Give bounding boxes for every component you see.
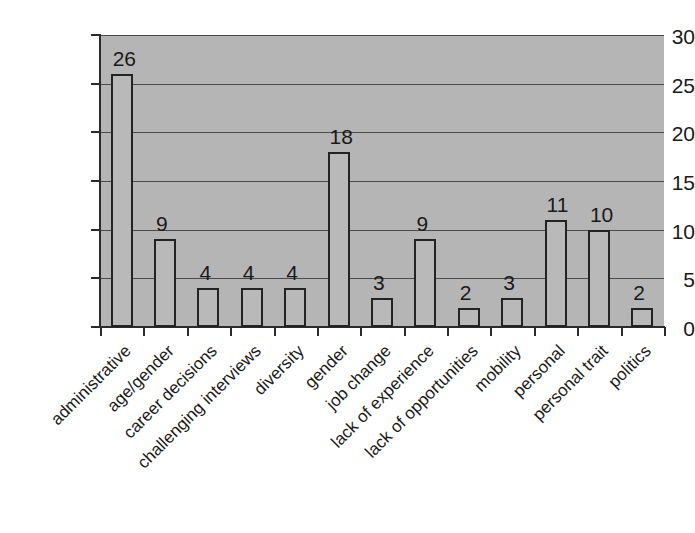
- x-tick-mark: [317, 327, 319, 336]
- x-tick-mark: [360, 327, 362, 336]
- bar-value-label: 10: [590, 204, 613, 225]
- bar-value-label: 3: [503, 272, 515, 293]
- x-tick-mark: [187, 327, 189, 336]
- gridline-30: [100, 35, 664, 36]
- bar-value-label: 26: [113, 48, 136, 69]
- gridline-25: [100, 84, 664, 85]
- gridline-15: [100, 181, 664, 182]
- bar-value-label: 11: [547, 194, 569, 215]
- x-tick-mark: [664, 327, 666, 336]
- bar-age-gender: [154, 239, 176, 327]
- y-tick-label-30: 30: [611, 26, 695, 47]
- bar-value-label: 18: [330, 126, 353, 147]
- y-tick-mark-20: [91, 131, 100, 133]
- bar-administrative: [111, 74, 133, 327]
- y-tick-label-20: 20: [611, 123, 695, 144]
- bar-politics: [631, 308, 653, 327]
- bar-mobility: [501, 298, 523, 327]
- y-tick-label-15: 15: [611, 172, 695, 193]
- x-tick-mark: [577, 327, 579, 336]
- x-tick-mark: [534, 327, 536, 336]
- bar-value-label: 2: [633, 282, 645, 303]
- bar-career-decisions: [197, 288, 219, 327]
- bar-personal: [545, 220, 567, 327]
- x-tick-mark: [230, 327, 232, 336]
- bar-value-label: 9: [156, 213, 168, 234]
- x-tick-mark: [100, 327, 102, 336]
- y-tick-mark-10: [91, 229, 100, 231]
- x-tick-mark: [274, 327, 276, 336]
- x-tick-mark: [621, 327, 623, 336]
- bar-lack-of-experience: [414, 239, 436, 327]
- x-tick-mark: [143, 327, 145, 336]
- y-tick-mark-25: [91, 83, 100, 85]
- bar-lack-of-opportunities: [458, 308, 480, 327]
- bar-chart: 30 25 20 15 10 5 0 26944418392311102admi…: [0, 0, 695, 533]
- x-tick-mark: [490, 327, 492, 336]
- bar-value-label: 3: [373, 272, 385, 293]
- bar-value-label: 4: [243, 262, 255, 283]
- x-tick-mark: [404, 327, 406, 336]
- bar-gender: [328, 152, 350, 327]
- y-tick-mark-30: [91, 34, 100, 36]
- y-tick-label-5: 5: [611, 269, 695, 290]
- y-tick-mark-15: [91, 180, 100, 182]
- bar-value-label: 4: [286, 262, 298, 283]
- x-category-label: administrative: [0, 342, 134, 495]
- y-tick-mark-0: [91, 326, 100, 328]
- y-tick-label-25: 25: [611, 75, 695, 96]
- bar-value-label: 9: [416, 213, 428, 234]
- bar-personal-trait: [588, 230, 610, 327]
- bar-value-label: 2: [460, 282, 472, 303]
- y-tick-label-10: 10: [611, 221, 695, 242]
- gridline-10: [100, 230, 664, 231]
- bar-job-change: [371, 298, 393, 327]
- x-tick-mark: [447, 327, 449, 336]
- gridline-20: [100, 132, 664, 133]
- bar-value-label: 4: [199, 262, 211, 283]
- bar-challenging-interviews: [241, 288, 263, 327]
- bar-diversity: [284, 288, 306, 327]
- y-tick-mark-5: [91, 277, 100, 279]
